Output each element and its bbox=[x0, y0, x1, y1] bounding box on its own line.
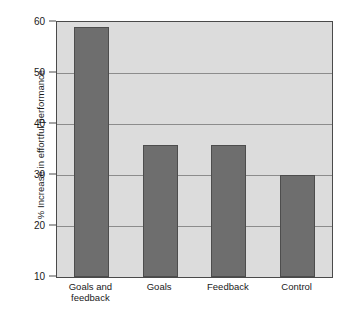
y-axis-tick-labels: 102030405060 bbox=[0, 0, 56, 318]
y-tick-mark bbox=[49, 174, 56, 175]
x-tick-label: Feedback bbox=[207, 281, 249, 292]
y-tick-mark bbox=[49, 72, 56, 73]
y-tick-label: 30 bbox=[34, 169, 45, 180]
y-tick-mark bbox=[49, 225, 56, 226]
y-tick-mark bbox=[49, 276, 56, 277]
y-tick-label: 50 bbox=[34, 67, 45, 78]
x-tick-label: Control bbox=[281, 281, 312, 292]
bar bbox=[143, 145, 178, 277]
y-tick-label: 60 bbox=[34, 16, 45, 27]
x-tick-label: Goals and feedback bbox=[69, 281, 112, 303]
bar-chart-figure: % Increase in effortful performance 1020… bbox=[0, 0, 345, 318]
bar bbox=[74, 27, 109, 277]
y-tick-label: 10 bbox=[34, 271, 45, 282]
x-tick-label: Goals bbox=[147, 281, 172, 292]
y-tick-mark bbox=[49, 21, 56, 22]
bar bbox=[280, 175, 315, 277]
y-tick-label: 40 bbox=[34, 118, 45, 129]
y-tick-label: 20 bbox=[34, 220, 45, 231]
bar bbox=[211, 145, 246, 277]
plot-area bbox=[56, 21, 333, 278]
x-axis-tick-labels: Goals and feedbackGoalsFeedbackControl bbox=[56, 281, 333, 318]
y-tick-mark bbox=[49, 123, 56, 124]
